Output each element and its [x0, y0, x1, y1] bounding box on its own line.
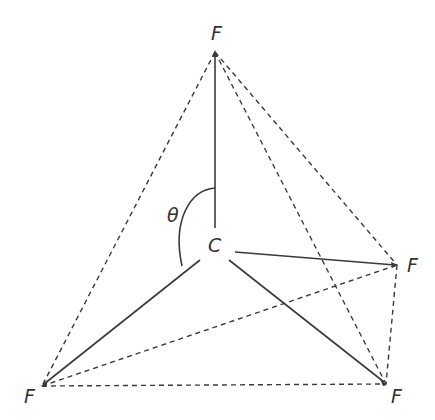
- label-c-center: C: [208, 234, 222, 256]
- edge-bottomleft-bottomright: [42, 384, 386, 386]
- label-f-right: F: [407, 254, 419, 276]
- label-f-bottomleft: F: [24, 385, 36, 407]
- bond-c-right: [235, 252, 395, 265]
- bond-c-bottomright: [229, 260, 384, 382]
- edge-bottomleft-right: [42, 265, 397, 386]
- bond-c-bottomleft: [44, 260, 200, 384]
- label-f-bottomright: F: [391, 385, 403, 407]
- label-f-top: F: [211, 22, 223, 44]
- tetrahedron-diagram: F F F F C θ: [0, 0, 435, 420]
- label-theta: θ: [167, 204, 179, 226]
- edge-right-bottomright: [386, 265, 397, 384]
- edge-top-right: [215, 52, 397, 265]
- edge-top-bottomright: [215, 52, 386, 384]
